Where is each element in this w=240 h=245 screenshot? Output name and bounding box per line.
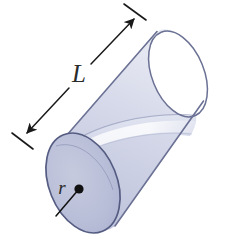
radius-label: r bbox=[58, 177, 66, 198]
center-dot bbox=[74, 184, 83, 193]
length-label: L bbox=[71, 60, 86, 87]
cylinder-figure: r L bbox=[0, 0, 240, 245]
cylinder-diagram-svg: r L bbox=[0, 0, 240, 245]
